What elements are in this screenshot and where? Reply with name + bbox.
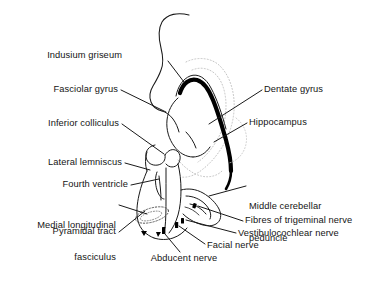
fourth-ventricle-floor <box>165 168 166 228</box>
uncus-outline <box>193 147 210 157</box>
fasciolar-gyrus-outline <box>162 111 179 132</box>
medial-longitudinal-fasciculus-oval <box>134 204 171 227</box>
label-fasciolar-gyrus: Fasciolar gyrus <box>0 84 118 95</box>
label-medial-longitudinal-fasciculus: Medial longitudinal fasciculus <box>0 199 116 282</box>
pontine-fibres <box>185 207 199 215</box>
hippocampus-tail <box>226 171 231 189</box>
vestibulocochlear-nerve-root <box>181 218 184 224</box>
leader-abducent-nerve <box>165 234 180 252</box>
parahippocampal-loop <box>167 98 193 157</box>
peduncle-edge <box>183 214 197 223</box>
leader-inferior-colliculus <box>122 124 164 154</box>
trigeminal-nerve-root <box>192 203 197 209</box>
label-vestibulocochlear-nerve: Vestibulocochlear nerve <box>238 228 339 239</box>
leader-fasciolar-gyrus <box>121 90 166 112</box>
hippocampus-thick-curve <box>180 80 231 171</box>
label-lateral-lemniscus: Lateral lemniscus <box>0 157 122 168</box>
leader-hippocampus <box>214 123 247 142</box>
anatomical-diagram: Indusium griseum Fasciolar gyrus Inferio… <box>0 0 377 282</box>
label-inferior-colliculus: Inferior colliculus <box>0 118 119 129</box>
label-dentate-gyrus: Dentate gyrus <box>264 84 323 95</box>
label-hippocampus: Hippocampus <box>249 117 307 128</box>
label-facial-nerve: Facial nerve <box>207 240 259 251</box>
hemisphere-ghost-lower <box>178 160 222 177</box>
label-fourth-ventricle: Fourth ventricle <box>0 179 128 190</box>
hippocampal-fissure <box>186 132 196 148</box>
label-abducent-nerve: Abducent nerve <box>122 253 246 264</box>
label-mcp-line1: Middle cerebellar <box>249 201 321 212</box>
leader-vestibulocochlear-nerve <box>186 220 236 233</box>
abducent-nerve-root <box>162 227 165 234</box>
label-indusium-griseum: Indusium griseum <box>6 50 122 61</box>
nerve-root-mark-lower <box>156 232 161 237</box>
label-mlf-line2: fasciculus <box>0 252 116 263</box>
leader-facial-nerve <box>179 226 205 244</box>
label-fibres-of-trigeminal-nerve: Fibres of trigeminal nerve <box>245 215 352 226</box>
label-pyramidal-tract: Pyramidal tract <box>0 226 116 237</box>
midbrain-tegmentum-top <box>146 152 148 171</box>
leader-fourth-ventricle <box>131 179 159 185</box>
facial-nerve-root <box>175 222 178 228</box>
leader-indusium-griseum <box>168 61 184 82</box>
